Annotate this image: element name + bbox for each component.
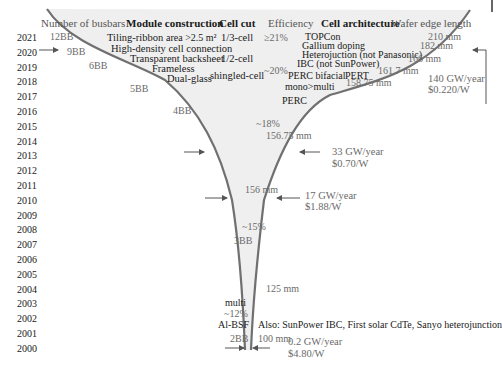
efficiency-18: ~18% <box>256 119 280 129</box>
market-2013-volume: 33 GW/year <box>332 147 384 158</box>
market-2000-volume: 0.2 GW/year <box>288 337 342 348</box>
year-label-2004: 2004 <box>17 285 37 295</box>
cell-cut-shingled: shingled-cell <box>210 71 264 82</box>
year-label-2016: 2016 <box>17 107 37 117</box>
year-label-2008: 2008 <box>17 225 37 235</box>
year-label-2017: 2017 <box>17 92 37 102</box>
cell-cut-third: 1/3-cell <box>221 33 253 44</box>
arch-ibc: IBC (not SunPower) <box>297 59 379 69</box>
header-module-construction: Module construction <box>126 18 223 29</box>
arch-multi: multi <box>225 298 246 308</box>
year-label-2014: 2014 <box>17 137 37 147</box>
wafer-156mm: 156 mm <box>245 185 278 195</box>
year-label-2009: 2009 <box>17 211 37 221</box>
busbar-3bb: 3BB <box>234 236 252 246</box>
module-tiling-ribbon: Tiling-ribbon <box>107 33 163 44</box>
year-label-2012: 2012 <box>17 166 37 176</box>
market-2020-price: $0.220/W <box>428 85 470 96</box>
efficiency-15: ~15% <box>242 222 266 232</box>
year-label-2015: 2015 <box>17 122 37 132</box>
year-label-2001: 2001 <box>17 329 37 339</box>
arch-mono-multi: mono>multi <box>285 82 335 92</box>
busbar-2bb: 2BB <box>230 334 248 344</box>
arch-perc-bifacial: PERC bifacial <box>288 71 346 81</box>
wafer-182mm: 182 mm <box>420 41 453 51</box>
market-2010-volume: 17 GW/year <box>305 191 357 202</box>
year-label-2020: 2020 <box>17 48 37 58</box>
arch-perc: PERC <box>282 96 307 106</box>
header-busbars: Number of busbars <box>41 18 125 29</box>
arch-al-bsf: Al-BSF <box>218 320 249 330</box>
year-label-2010: 2010 <box>17 196 37 206</box>
wafer-166mm: 166 mm <box>408 54 441 64</box>
module-dual-glass: Dual-glass <box>167 74 212 85</box>
header-cell-architecture: Cell architecture <box>321 18 400 29</box>
busbar-9bb: 9BB <box>67 47 85 57</box>
wafer-161-7mm: 161.7 mm <box>378 66 419 76</box>
funnel-shaded-area <box>47 9 470 350</box>
market-2013-price: $0.70/W <box>332 159 368 170</box>
busbar-12bb: 12BB <box>50 32 73 42</box>
efficiency-12: ~12% <box>224 309 248 319</box>
year-label-2005: 2005 <box>17 270 37 280</box>
header-efficiency: Efficiency <box>268 18 314 29</box>
wafer-158-75mm: 158.75 mm <box>346 78 392 88</box>
year-label-2021: 2021 <box>17 33 37 43</box>
efficiency-21: ≥21% <box>264 33 288 43</box>
year-label-2003: 2003 <box>17 299 37 309</box>
market-2010-price: $1.88/W <box>305 202 341 213</box>
wafer-100mm: 100 mm <box>258 334 291 344</box>
market-2000-price: $4.80/W <box>288 349 324 360</box>
busbar-4bb: 4BB <box>173 106 191 116</box>
header-cell-cut: Cell cut <box>219 18 255 29</box>
wafer-125mm: 125 mm <box>266 284 299 294</box>
year-label-2000: 2000 <box>17 344 37 354</box>
year-label-2002: 2002 <box>17 314 37 324</box>
cell-cut-half: 1/2-cell <box>221 54 253 65</box>
header-wafer-edge-length: Wafer edge length <box>391 18 471 29</box>
year-label-2011: 2011 <box>17 181 37 191</box>
arch-also-note: Also: SunPower IBC, First solar CdTe, Sa… <box>258 320 502 330</box>
year-label-2013: 2013 <box>17 151 37 161</box>
year-label-2018: 2018 <box>17 77 37 87</box>
market-2020-volume: 140 GW/year <box>428 74 485 85</box>
module-area: area >2.5 m² <box>166 33 217 43</box>
busbar-6bb: 6BB <box>89 61 107 71</box>
efficiency-20: ~20% <box>264 66 288 76</box>
busbar-5bb: 5BB <box>130 84 148 94</box>
year-label-2007: 2007 <box>17 240 37 250</box>
wafer-156-75mm: 156.75 mm <box>266 131 312 141</box>
year-label-2019: 2019 <box>17 63 37 73</box>
year-label-2006: 2006 <box>17 255 37 265</box>
